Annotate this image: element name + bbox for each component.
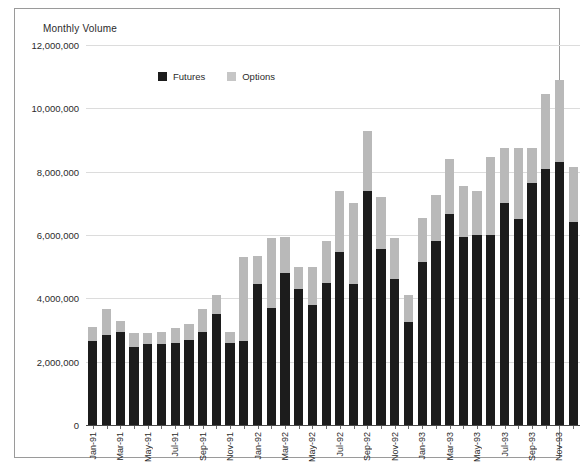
- chart-title: Monthly Volume: [43, 23, 117, 34]
- y-axis-tick-label: 2,000,000: [37, 356, 79, 367]
- bar-oct-92: [376, 197, 385, 425]
- bar-sep-93: [527, 148, 536, 425]
- bar-jul-91: [171, 328, 180, 425]
- bar-jun-93: [486, 157, 495, 425]
- bar-jul-93: [500, 148, 509, 425]
- bar-segment-futures: [116, 332, 125, 425]
- bar-segment-futures: [459, 237, 468, 425]
- x-axis-label-wrap: Jul-91: [169, 432, 181, 457]
- bar-segment-futures: [486, 235, 495, 425]
- bar-segment-options: [555, 80, 564, 162]
- bar-segment-futures: [431, 241, 440, 425]
- x-axis-label-wrap: Nov-92: [389, 432, 401, 461]
- bar-apr-92: [294, 267, 303, 425]
- bar-segment-options: [418, 218, 427, 262]
- bar-segment-futures: [308, 305, 317, 425]
- bar-segment-options: [404, 295, 413, 322]
- bar-segment-options: [198, 309, 207, 331]
- x-axis-label-wrap: Nov-93: [553, 432, 565, 461]
- bar-segment-options: [280, 237, 289, 273]
- bar-segment-futures: [102, 335, 111, 425]
- bar-sep-91: [198, 309, 207, 425]
- x-axis-tick-label: Jul-93: [500, 432, 510, 457]
- gridline: [86, 45, 580, 46]
- y-axis-tick-label: 8,000,000: [37, 166, 79, 177]
- bar-dec-93: [569, 167, 578, 425]
- bar-mar-93: [445, 159, 454, 425]
- x-axis-line: [86, 425, 580, 426]
- bar-oct-91: [212, 295, 221, 425]
- bar-segment-futures: [390, 279, 399, 425]
- bar-feb-93: [431, 195, 440, 425]
- bar-segment-options: [486, 157, 495, 235]
- bar-segment-futures: [445, 214, 454, 425]
- bar-mar-91: [116, 321, 125, 426]
- bar-segment-futures: [171, 343, 180, 425]
- x-axis-label-wrap: Jan-91: [87, 432, 99, 460]
- x-axis-tick-label: May-91: [143, 432, 153, 462]
- bar-segment-options: [349, 203, 358, 284]
- bar-segment-options: [88, 327, 97, 341]
- x-axis-tick-label: Sep-93: [527, 432, 537, 461]
- bar-segment-options: [472, 191, 481, 235]
- x-axis-tick-label: May-93: [472, 432, 482, 462]
- bar-segment-futures: [363, 191, 372, 425]
- bar-segment-options: [363, 131, 372, 191]
- x-axis-label-wrap: May-92: [306, 432, 318, 462]
- y-axis-tick-label: 4,000,000: [37, 293, 79, 304]
- bar-segment-options: [116, 321, 125, 332]
- bar-may-92: [308, 267, 317, 425]
- bar-jan-91: [88, 327, 97, 425]
- x-axis-tick-label: Jul-92: [335, 432, 345, 457]
- x-axis-tick-label: Nov-92: [390, 432, 400, 461]
- bar-segment-options: [541, 94, 550, 168]
- bar-segment-futures: [267, 308, 276, 425]
- x-axis-label-wrap: Sep-91: [197, 432, 209, 461]
- x-axis-tick-label: Mar-93: [445, 432, 455, 461]
- bar-segment-futures: [212, 314, 221, 425]
- x-axis-label-wrap: Sep-92: [361, 432, 373, 461]
- bar-segment-options: [459, 186, 468, 237]
- bar-apr-93: [459, 186, 468, 425]
- x-axis-tick-label: Jan-91: [88, 432, 98, 460]
- y-axis-tick-label: 0: [74, 420, 79, 431]
- bar-segment-options: [102, 309, 111, 334]
- x-axis-tick-label: Nov-93: [554, 432, 564, 461]
- bar-segment-futures: [569, 222, 578, 425]
- bar-aug-93: [514, 148, 523, 425]
- bar-segment-futures: [239, 341, 248, 425]
- bar-segment-futures: [143, 344, 152, 425]
- x-axis-label-wrap: Mar-91: [114, 432, 126, 461]
- bar-jun-92: [322, 241, 331, 425]
- x-axis-tick-label: May-92: [307, 432, 317, 462]
- bar-segment-futures: [253, 284, 262, 425]
- x-axis-label-wrap: May-93: [471, 432, 483, 462]
- x-axis-tick-label: Jan-92: [253, 432, 263, 460]
- bar-nov-91: [225, 332, 234, 425]
- bar-segment-options: [500, 148, 509, 203]
- x-axis-label-wrap: Jan-93: [416, 432, 428, 460]
- chart-frame: Monthly Volume Futures Options 12,000,00…: [14, 8, 560, 458]
- bar-segment-options: [171, 328, 180, 342]
- bar-jul-92: [335, 191, 344, 425]
- bar-segment-options: [212, 295, 221, 314]
- gridline: [86, 108, 580, 109]
- y-axis-tick-label: 12,000,000: [31, 40, 79, 51]
- bar-nov-92: [390, 238, 399, 425]
- bar-segment-options: [514, 148, 523, 219]
- bar-segment-options: [253, 256, 262, 285]
- bar-oct-93: [541, 94, 550, 425]
- x-axis-tick-label: Nov-91: [225, 432, 235, 461]
- bar-segment-futures: [555, 162, 564, 425]
- bar-aug-92: [349, 203, 358, 425]
- bar-segment-options: [335, 191, 344, 253]
- bar-segment-futures: [376, 249, 385, 425]
- bar-jan-93: [418, 218, 427, 425]
- bar-dec-92: [404, 295, 413, 425]
- x-axis-label-wrap: Sep-93: [526, 432, 538, 461]
- y-axis-tick-label: 6,000,000: [37, 230, 79, 241]
- plot-area: 12,000,00010,000,0008,000,0006,000,0004,…: [86, 45, 580, 425]
- bar-segment-futures: [184, 340, 193, 426]
- bar-jun-91: [157, 332, 166, 425]
- bar-segment-options: [376, 197, 385, 249]
